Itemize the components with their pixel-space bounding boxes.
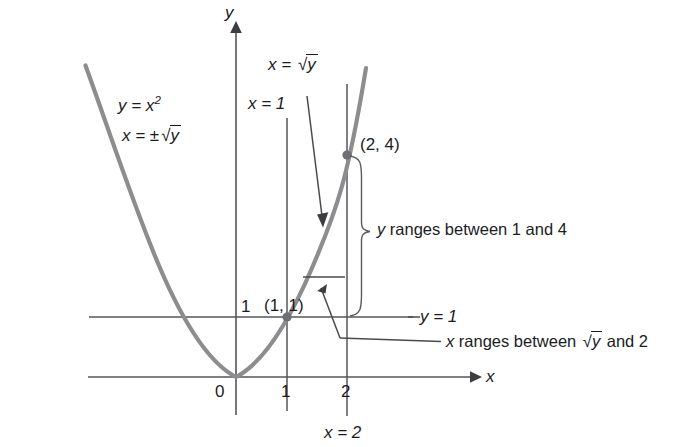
radical-group: √y xyxy=(581,333,602,350)
annotation-y-range: y ranges between 1 and 4 xyxy=(377,221,567,238)
x-tick-0: 0 xyxy=(215,383,224,400)
point-label-1-1: (1, 1) xyxy=(264,297,304,314)
label-x-equals-2-text: x = 2 xyxy=(324,423,361,442)
label-x-equals-2: x = 2 xyxy=(324,424,361,441)
x-axis-label: x xyxy=(486,368,495,385)
y-axis-label: y xyxy=(225,4,234,21)
label-y-equals-1-text: y = 1 xyxy=(420,307,457,326)
inverse-prefix: x = ± xyxy=(122,126,159,145)
annotation-x-range-lead: x xyxy=(446,332,454,350)
diagram-svg xyxy=(0,0,674,447)
point-2-4-dot xyxy=(342,150,351,159)
radicand: y xyxy=(306,54,318,74)
brace-y-range xyxy=(350,156,370,316)
y-tick-1: 1 xyxy=(241,298,250,315)
x-tick-2: 2 xyxy=(341,383,350,400)
equation-base: y = x xyxy=(118,96,154,115)
radicand: y xyxy=(591,331,602,350)
annotation-y-range-rest: ranges between 1 and 4 xyxy=(385,220,567,238)
label-y-equals-1: y = 1 xyxy=(420,308,457,325)
annotation-x-range-tail: and 2 xyxy=(602,332,648,350)
x-tick-1: 1 xyxy=(281,383,290,400)
label-x-equals-sqrt-y: x = √y xyxy=(268,56,318,73)
label-x-equals-1: x = 1 xyxy=(248,95,285,112)
leader-x-sqrt-y xyxy=(307,96,328,228)
label-equation-y-equals-x-squared: y = x2 xyxy=(118,95,161,114)
annotation-x-range: x ranges between √y and 2 xyxy=(446,333,648,350)
figure-canvas: y x 0 1 2 1 y = x2 x = ±√y x = √y x = 1 … xyxy=(0,0,674,447)
radical-group: √y xyxy=(159,127,181,144)
annotation-y-range-lead: y xyxy=(377,220,385,238)
y-axis xyxy=(230,21,242,415)
inverse-branch-prefix: x = xyxy=(268,55,296,74)
label-x-equals-1-text: x = 1 xyxy=(248,94,285,113)
annotation-x-range-mid: ranges between xyxy=(454,332,581,350)
radical-group: √y xyxy=(296,56,318,73)
label-equation-x-equals-plusminus-sqrt-y: x = ±√y xyxy=(122,127,181,144)
equation-exponent: 2 xyxy=(154,94,160,106)
point-label-2-4: (2, 4) xyxy=(360,136,400,153)
radicand: y xyxy=(170,125,182,145)
